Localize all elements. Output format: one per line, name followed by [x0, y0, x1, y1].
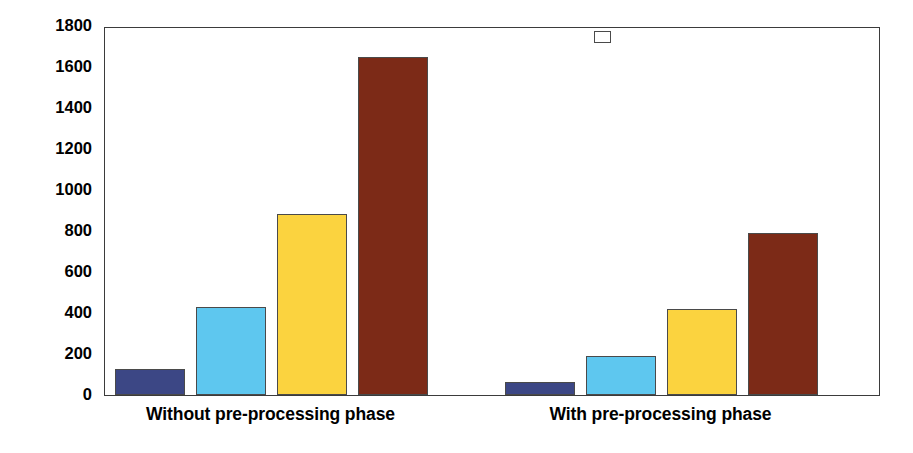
- y-tick-label: 600: [64, 262, 92, 281]
- bar: [115, 369, 185, 395]
- y-tick-label: 1400: [55, 98, 92, 117]
- y-tick-label: 400: [64, 303, 92, 322]
- y-tick-label: 200: [64, 344, 92, 363]
- bar: [667, 309, 737, 395]
- y-tick-label: 1200: [55, 139, 92, 158]
- bar: [277, 214, 347, 395]
- y-tick-label: 1600: [55, 57, 92, 76]
- bar: [358, 57, 428, 395]
- plot-area: [104, 27, 880, 396]
- y-tick-label: 1800: [55, 16, 92, 35]
- bar: [196, 307, 266, 395]
- y-tick-label: 1000: [55, 180, 92, 199]
- y-tick-label: 800: [64, 221, 92, 240]
- legend: [594, 31, 611, 43]
- bar: [505, 382, 575, 395]
- chart-figure: CPU Time [s] 020040060080010001200140016…: [0, 0, 913, 453]
- y-tick-label: 0: [83, 385, 92, 404]
- bar: [748, 233, 818, 395]
- x-axis-group-label: Without pre-processing phase: [71, 404, 471, 425]
- bar: [586, 356, 656, 395]
- x-axis-group-label: With pre-processing phase: [461, 404, 861, 425]
